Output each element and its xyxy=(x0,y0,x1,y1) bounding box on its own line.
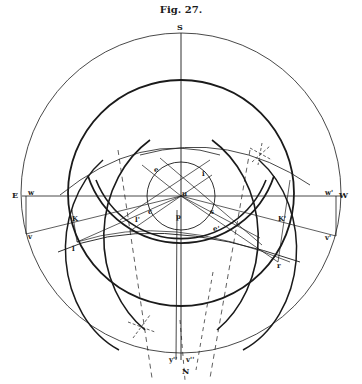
meridian-line-2 xyxy=(176,210,177,360)
label-u: u xyxy=(182,189,187,198)
ray-e xyxy=(142,165,181,196)
label-K-prime: K' xyxy=(278,214,286,223)
label-y-prime-prime: y'' xyxy=(168,355,177,364)
label-c: c xyxy=(148,207,152,216)
label-s: s xyxy=(210,207,214,216)
label-v-prime: v' xyxy=(324,233,331,242)
label-w-prime: w' xyxy=(324,188,333,197)
label-i: i xyxy=(202,169,205,178)
label-p: p xyxy=(176,212,181,221)
label-r: r xyxy=(277,261,281,270)
thin-arc-lower xyxy=(58,233,300,262)
label-l-prime: l' xyxy=(135,215,140,224)
thin-arc-left xyxy=(60,148,220,195)
label-e: e xyxy=(154,165,159,174)
compass-north: N xyxy=(182,366,189,376)
label-K: K xyxy=(72,214,79,223)
label-v: v xyxy=(27,232,33,241)
ray-l xyxy=(77,196,181,242)
compass-east: E xyxy=(12,190,18,200)
dashed-line-left xyxy=(118,150,152,378)
ray-r xyxy=(181,196,278,262)
compass-south: S xyxy=(177,22,183,32)
dashed-line-right xyxy=(210,150,250,378)
label-l: l xyxy=(72,244,75,253)
tangent-line-1 xyxy=(120,160,210,220)
geometric-diagram: S N E W u e i c s p l' e' K K' l r w v w… xyxy=(0,0,362,384)
compass-west: W xyxy=(338,190,349,200)
dashed-line-right-2 xyxy=(196,272,213,370)
label-v-prime-prime: v'' xyxy=(185,355,194,364)
label-e-prime: e' xyxy=(213,224,220,233)
label-w: w xyxy=(27,188,35,197)
ray-c xyxy=(130,196,181,231)
